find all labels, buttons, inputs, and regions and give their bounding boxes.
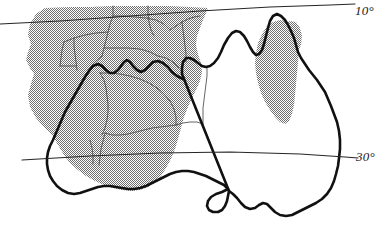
latitude-label-30: 30° (356, 149, 375, 165)
map-canvas (0, 0, 388, 229)
latitude-label-10: 10° (355, 3, 374, 19)
australia-distribution-map: 10° 30° (0, 0, 388, 229)
